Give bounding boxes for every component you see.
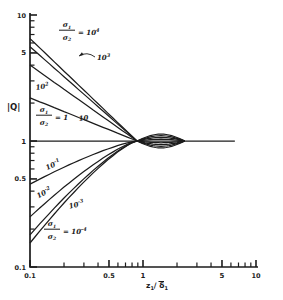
x-axis-title: z1/ δ1 xyxy=(146,281,168,291)
x-tick-label: 1 xyxy=(141,272,146,280)
sigma2-label: σ2 xyxy=(40,118,48,128)
sigma1-over-sigma2-label: σ1 xyxy=(40,105,48,115)
curve-label-10^-3: 10-3 xyxy=(68,197,86,211)
curve-label-10^2: 102 xyxy=(35,80,50,92)
x-tick-label: 0.5 xyxy=(103,272,115,280)
curve-sigma-ratio-10^-3 xyxy=(30,136,185,235)
y-tick-label: 5 xyxy=(21,49,26,57)
sigma1-over-sigma2-label: σ1 xyxy=(48,219,56,229)
scanned-figure-page: 10510.50.10.10.51510|Q|z1/ δ1σ1σ2= 10410… xyxy=(0,0,283,300)
y-tick-label: 0.1 xyxy=(14,264,26,272)
sigma1-over-sigma2-label: σ1 xyxy=(63,20,71,30)
ratio-value-label: = 1 xyxy=(55,113,68,122)
x-tick-label: 10 xyxy=(251,272,261,280)
y-tick-label: 10 xyxy=(17,12,27,20)
x-tick-label: 0.1 xyxy=(24,272,36,280)
y-axis-title: |Q| xyxy=(7,102,20,112)
sigma2-label: σ2 xyxy=(63,33,71,43)
q-vs-depth-log-log-chart: 10510.50.10.10.51510|Q|z1/ δ1σ1σ2= 10410… xyxy=(0,0,283,300)
curve-label-10^3: 103 xyxy=(97,52,111,62)
ratio-value-label: = 104 xyxy=(78,27,100,37)
y-tick-label: 0.5 xyxy=(14,175,26,183)
curve-label-10: 10 xyxy=(78,113,89,123)
sigma2-label: σ2 xyxy=(48,232,56,242)
y-tick-label: 1 xyxy=(21,138,26,146)
curve-sigma-ratio-10^2 xyxy=(30,65,185,144)
label-arrowhead-icon xyxy=(79,52,84,56)
x-tick-label: 5 xyxy=(220,272,225,280)
ratio-value-label: = 10-4 xyxy=(63,226,87,236)
